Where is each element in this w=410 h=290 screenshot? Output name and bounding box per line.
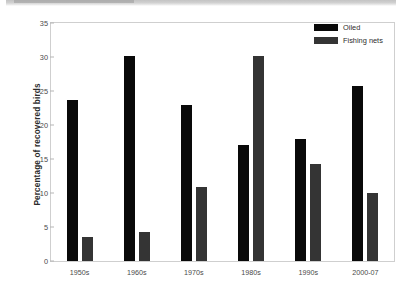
bar-fishing-nets-1960s bbox=[139, 232, 150, 261]
x-axis-tick-label: 1980s bbox=[241, 268, 261, 277]
bar-oiled-1980s bbox=[238, 145, 249, 261]
bar-oiled-1990s bbox=[295, 139, 306, 261]
x-axis-tick-label: 1990s bbox=[298, 268, 318, 277]
chart-page: Percentage of recovered birds 0510152025… bbox=[0, 0, 410, 290]
chart-legend: OiledFishing nets bbox=[314, 22, 400, 48]
bar-oiled-1970s bbox=[181, 105, 192, 261]
x-axis-tick-label: 1970s bbox=[184, 268, 204, 277]
legend-item: Oiled bbox=[314, 22, 400, 33]
y-axis-tick-label: 35 bbox=[20, 19, 48, 28]
y-axis-tick-label: 15 bbox=[20, 155, 48, 164]
bar-fishing-nets-1950s bbox=[82, 237, 93, 261]
y-axis-tick-label: 30 bbox=[20, 53, 48, 62]
x-axis-tick-label: 1960s bbox=[127, 268, 147, 277]
legend-swatch bbox=[314, 24, 338, 31]
x-axis-tick-label: 1950s bbox=[70, 268, 90, 277]
y-axis-title: Percentage of recovered birds bbox=[33, 35, 42, 255]
legend-swatch bbox=[314, 37, 338, 44]
legend-item: Fishing nets bbox=[314, 35, 400, 46]
y-axis-tick-label: 5 bbox=[20, 223, 48, 232]
legend-label: Oiled bbox=[343, 23, 360, 32]
x-axis-tick-label: 2000-07 bbox=[352, 268, 378, 277]
scan-artifact-text-remnant bbox=[14, 0, 134, 3]
legend-label: Fishing nets bbox=[343, 36, 383, 45]
bar-fishing-nets-1990s bbox=[310, 164, 321, 261]
bar-fishing-nets-1980s bbox=[253, 56, 264, 261]
bar-fishing-nets-2000-07 bbox=[367, 193, 378, 261]
y-axis-tick-label: 25 bbox=[20, 87, 48, 96]
bars-layer bbox=[51, 23, 394, 261]
bar-fishing-nets-1970s bbox=[196, 187, 207, 261]
y-axis-tick-label: 0 bbox=[20, 257, 48, 266]
bar-oiled-1950s bbox=[67, 100, 78, 261]
bar-oiled-1960s bbox=[124, 56, 135, 261]
y-axis-tick-label: 10 bbox=[20, 189, 48, 198]
y-axis-tick-label: 20 bbox=[20, 121, 48, 130]
bar-oiled-2000-07 bbox=[352, 86, 363, 261]
